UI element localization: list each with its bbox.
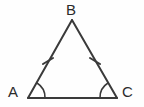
vertex-label-b: B: [66, 2, 76, 17]
side-bc: [72, 20, 117, 98]
tick-marks: [43, 58, 100, 64]
geometry-figure: A B C: [0, 0, 144, 107]
angle-arcs: [37, 83, 108, 98]
vertex-label-a: A: [8, 84, 18, 99]
angle-arc-a: [37, 83, 45, 98]
vertex-label-c: C: [122, 84, 133, 99]
angle-arc-c: [100, 83, 108, 98]
